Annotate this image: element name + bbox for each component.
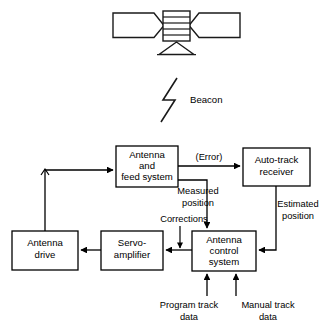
error-label: (Error): [196, 152, 223, 162]
servo-amplifier-line-2: amplifier: [114, 249, 151, 260]
antenna-feed-system-line-2: and: [139, 160, 155, 171]
satellite-body: [163, 11, 190, 41]
corrections-label: Corrections: [160, 214, 208, 224]
beacon-label: Beacon: [190, 94, 223, 105]
manual-track-data-line-1: Manual track: [241, 300, 295, 310]
satellite-illustration: [113, 11, 240, 55]
antenna-drive-line-2: drive: [35, 249, 56, 260]
estimated-position-line-1: Estimated: [277, 199, 318, 209]
satellite-antenna-horn: [159, 42, 194, 55]
program-track-data-line-2: data: [180, 312, 199, 322]
antenna-feed-system-line-1: Antenna: [129, 149, 165, 160]
diagram-canvas: Beacon Antenna and feed system Auto-trac…: [0, 0, 333, 330]
auto-track-receiver-line-2: receiver: [259, 166, 294, 177]
edge-estimated-position: [259, 186, 276, 250]
antenna-control-system-line-1: Antenna: [206, 234, 242, 245]
manual-track-data-line-2: data: [259, 312, 278, 322]
edge-drive-to-antenna-feedback: [45, 170, 113, 231]
measured-position-line-2: position: [182, 198, 214, 208]
antenna-feed-system-line-3: feed system: [121, 171, 173, 182]
servo-amplifier-line-1: Servo-: [118, 237, 146, 248]
block-diagram-svg: Beacon Antenna and feed system Auto-trac…: [0, 0, 333, 330]
auto-track-receiver-line-1: Auto-track: [255, 154, 299, 165]
right-solar-panel: [189, 13, 240, 38]
program-track-data-line-1: Program track: [160, 300, 219, 310]
antenna-control-system-line-3: system: [209, 256, 239, 267]
estimated-position-line-2: position: [282, 211, 314, 221]
antenna-control-system-line-2: control: [210, 245, 239, 256]
antenna-drive-line-1: Antenna: [27, 237, 63, 248]
left-solar-panel: [113, 13, 164, 38]
beacon-signal-symbol: [161, 78, 177, 122]
measured-position-line-1: Measured: [177, 186, 218, 196]
